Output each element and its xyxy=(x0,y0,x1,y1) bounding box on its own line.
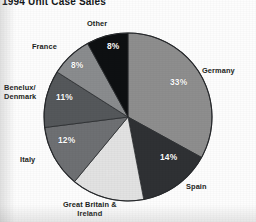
pie-chart-figure: 1994 Unit Case Sales Other France Benelu… xyxy=(0,0,256,222)
slice-value-spain: 14% xyxy=(160,152,177,162)
slice-label-germany: Germany xyxy=(202,66,235,75)
slice-value-france: 8% xyxy=(71,60,84,70)
chart-title: 1994 Unit Case Sales xyxy=(2,0,106,7)
slice-value-benelux-denmark: 11% xyxy=(56,92,73,102)
slice-value-other: 8% xyxy=(107,41,120,51)
slice-label-other: Other xyxy=(87,19,107,28)
slice-value-great-britain-ireland: 14% xyxy=(105,168,122,178)
slice-label-france: France xyxy=(32,42,57,51)
pie-slices xyxy=(44,33,212,201)
slice-label-great-britain-ireland-line2: Ireland xyxy=(77,209,102,218)
slice-label-italy: Italy xyxy=(20,155,35,164)
slice-label-spain: Spain xyxy=(186,182,207,191)
slice-label-benelux-denmark-line2: Denmark xyxy=(4,92,36,101)
slice-value-italy: 12% xyxy=(58,135,75,145)
slice-label-benelux-denmark: Benelux/ Denmark xyxy=(4,83,36,101)
slice-label-great-britain-ireland-line1: Great Britain & xyxy=(63,200,117,209)
slice-label-benelux-denmark-line1: Benelux/ xyxy=(4,83,36,92)
pie-chart-graphic xyxy=(0,0,256,222)
slice-value-germany: 33% xyxy=(170,77,187,87)
slice-label-great-britain-ireland: Great Britain & Ireland xyxy=(63,200,117,218)
